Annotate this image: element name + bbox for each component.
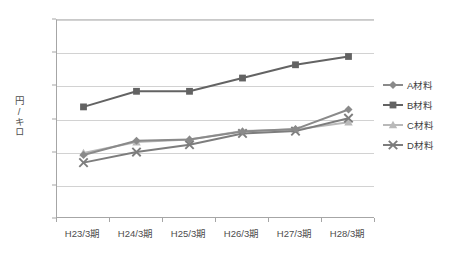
series-line xyxy=(84,110,349,155)
x-tick-mark xyxy=(268,218,269,222)
legend-item-C材料[interactable]: C材料 xyxy=(382,115,450,135)
x-tick-mark xyxy=(56,218,57,222)
x-tick-mark xyxy=(215,218,216,222)
legend-swatch-diamond-icon xyxy=(382,78,404,92)
series-layer xyxy=(57,20,375,219)
legend-item-D材料[interactable]: D材料 xyxy=(382,135,450,155)
legend-label: D材料 xyxy=(407,138,434,152)
series-line xyxy=(84,122,349,153)
x-tick-label: H23/3期 xyxy=(65,226,100,240)
data-point-square xyxy=(292,61,299,68)
series-B材料 xyxy=(80,53,352,110)
x-tick-label: H24/3期 xyxy=(118,226,153,240)
y-axis-title: 円/キロ xyxy=(14,96,24,137)
legend-label: C材料 xyxy=(407,118,434,132)
data-point-square xyxy=(345,53,352,60)
series-A材料 xyxy=(80,106,353,159)
x-tick-label: H27/3期 xyxy=(277,226,312,240)
data-point-diamond xyxy=(345,106,353,114)
data-point-square xyxy=(239,75,246,82)
x-tick-mark xyxy=(321,218,322,222)
x-tick-label: H28/3期 xyxy=(330,226,365,240)
legend-label: A材料 xyxy=(407,78,433,92)
legend: A材料B材料C材料D材料 xyxy=(382,75,450,155)
data-point-square xyxy=(186,88,193,95)
legend-item-A材料[interactable]: A材料 xyxy=(382,75,450,95)
x-tick-mark xyxy=(109,218,110,222)
data-point-square xyxy=(80,103,87,110)
legend-label: B材料 xyxy=(407,98,433,112)
legend-swatch-triangle-icon xyxy=(382,118,404,132)
plot-area xyxy=(56,19,374,218)
line-chart: 円/キロ 600500400300200100 H23/3期H24/3期H25/… xyxy=(0,0,453,254)
series-line xyxy=(84,56,349,106)
data-point-square xyxy=(133,88,140,95)
legend-item-B材料[interactable]: B材料 xyxy=(382,95,450,115)
legend-swatch-cross-icon xyxy=(382,138,404,152)
x-tick-label: H26/3期 xyxy=(224,226,259,240)
data-point-diamond xyxy=(389,81,397,89)
data-point-square xyxy=(390,102,397,109)
legend-swatch-square-icon xyxy=(382,98,404,112)
x-tick-label: H25/3期 xyxy=(171,226,206,240)
x-tick-mark xyxy=(374,218,375,222)
series-D材料 xyxy=(79,114,352,167)
x-tick-mark xyxy=(162,218,163,222)
